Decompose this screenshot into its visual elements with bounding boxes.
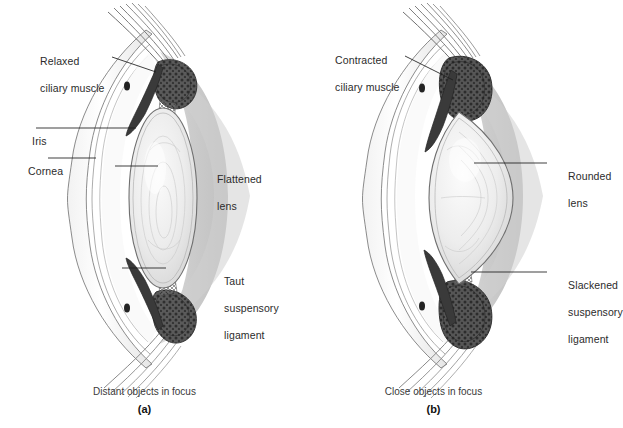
label-line-3: ligament (568, 333, 609, 345)
label-relaxed-ciliary-muscle: Relaxed ciliary muscle (22, 41, 105, 109)
label-line-2: suspensory (568, 306, 623, 318)
caption-letter-a: (a) (0, 403, 289, 415)
schlemm-canal-upper (124, 82, 130, 91)
schlemm-canal-lower (124, 304, 130, 313)
label-line-2: suspensory (224, 302, 279, 314)
caption-a: Distant objects in focus (0, 386, 289, 397)
caption-letter-b: (b) (289, 403, 578, 415)
schlemm-canal-lower (419, 302, 425, 311)
label-line-2: lens (568, 197, 588, 209)
label-line-2: ciliary muscle (40, 82, 104, 94)
label-line-1: Flattened (217, 173, 262, 185)
label-line-1: Slackened (568, 279, 618, 291)
label-cornea: Cornea (10, 151, 63, 192)
label-slackened-suspensory-ligament: Slackened suspensory ligament (550, 265, 623, 360)
lens-highlight-b (449, 138, 481, 182)
label-line-1: Taut (224, 275, 244, 287)
label-line-1: Contracted (335, 54, 387, 66)
label-line-3: ligament (224, 329, 265, 341)
label-taut-suspensory-ligament: Taut suspensory ligament (206, 261, 279, 356)
label-contracted-ciliary-muscle: Contracted ciliary muscle (317, 40, 400, 108)
schlemm-canal-upper (419, 84, 425, 93)
label-line-2: lens (217, 200, 237, 212)
panel-b: Contracted ciliary muscle Rounded lens S… (289, 0, 578, 428)
label-line-1: Iris (32, 135, 46, 147)
label-line-1: Rounded (568, 170, 611, 182)
label-line-2: ciliary muscle (335, 81, 399, 93)
lens-flattened (129, 108, 197, 288)
label-line-1: Cornea (28, 165, 63, 177)
label-flattened-lens: Flattened lens (199, 159, 262, 227)
label-rounded-lens: Rounded lens (550, 156, 611, 224)
panel-a: Relaxed ciliary muscle Iris Cornea Flatt… (0, 0, 289, 428)
label-line-1: Relaxed (40, 55, 79, 67)
lens-highlight-a (144, 142, 166, 194)
caption-b: Close objects in focus (289, 386, 578, 397)
